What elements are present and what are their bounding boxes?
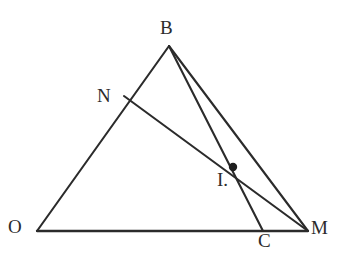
vertex-label-m: M	[311, 218, 328, 237]
vertex-label-i: I.	[217, 170, 228, 189]
vertex-label-n: N	[97, 86, 111, 105]
segment-BM	[169, 46, 308, 231]
segment-NM	[124, 96, 308, 231]
geometry-figure: B N I. O C M	[0, 0, 347, 259]
vertex-label-b: B	[160, 18, 173, 37]
point-I-dot	[229, 163, 237, 171]
figure-canvas	[0, 0, 347, 259]
vertex-label-o: O	[8, 217, 22, 236]
segment-OB	[37, 46, 169, 231]
vertex-label-c: C	[258, 231, 271, 250]
